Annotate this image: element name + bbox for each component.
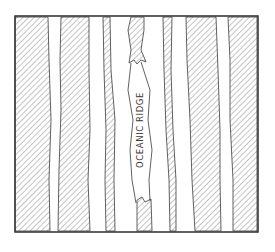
stripe-right-1 (163, 17, 176, 231)
stripe-ridge-top (128, 17, 146, 64)
ridge-label: OCEANIC RIDGE (135, 92, 145, 168)
stripe-left-3 (103, 17, 115, 231)
oceanic-ridge-diagram: OCEANIC RIDGE (0, 0, 275, 252)
stripe-left-1 (15, 17, 51, 231)
stripe-left-2 (58, 17, 90, 231)
stripe-right-3 (228, 17, 257, 231)
stripe-right-2 (186, 17, 221, 231)
stripe-ridge-bottom (137, 197, 152, 231)
